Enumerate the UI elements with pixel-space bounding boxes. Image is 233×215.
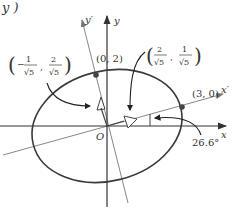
svg-text:(: ( (8, 53, 16, 77)
svg-text:): ) (64, 53, 72, 77)
point-0-2-dot (93, 72, 99, 78)
rotated-ellipse-diagram: y ) x y x′ y′ O (0, 2) (3, 0) ( − 1 √5 ,… (0, 0, 233, 215)
callout-arrow-x-prime-vector (130, 52, 145, 110)
svg-text:√5: √5 (24, 68, 34, 77)
y-prime-axis-label: y′ (84, 14, 94, 25)
vector-x-prime-shaft (107, 121, 124, 126)
y-prime-axis (82, 20, 128, 203)
vector-y-prime-label: ( − 1 √5 , 2 √5 ) (8, 53, 72, 77)
origin-label: O (96, 131, 104, 142)
angle-label: 26.6° (192, 137, 219, 148)
svg-text:1: 1 (26, 55, 31, 64)
svg-text:√5: √5 (154, 58, 164, 67)
callout-arrow-y-prime-vector (47, 83, 90, 106)
svg-text:√5: √5 (49, 68, 59, 77)
svg-text:1: 1 (182, 45, 187, 54)
vector-x-prime-label: ( 2 √5 , 1 √5 ) (146, 44, 202, 68)
svg-text:2: 2 (157, 45, 162, 54)
svg-text:2: 2 (51, 55, 56, 64)
x-prime-axis-label: x′ (221, 84, 230, 95)
point-0-2-label: (0, 2) (96, 53, 123, 64)
x-axis-label: x (221, 129, 227, 140)
svg-text:(: ( (146, 44, 154, 68)
point-3-0-dot (179, 104, 185, 110)
point-3-0-label: (3, 0) (192, 88, 219, 99)
svg-text:,: , (170, 52, 173, 62)
svg-text:√5: √5 (179, 58, 189, 67)
y-axis-label: y (113, 15, 120, 26)
svg-text:,: , (40, 62, 43, 72)
header-fragment: y ) (1, 0, 19, 15)
svg-text:): ) (194, 44, 202, 68)
